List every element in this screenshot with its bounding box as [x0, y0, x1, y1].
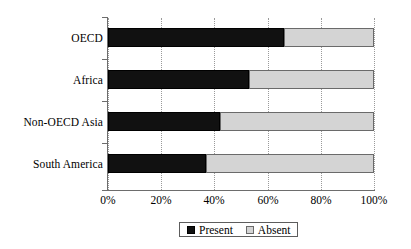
x-tick-label-80: 80%: [299, 194, 343, 207]
y-axis-tick: [102, 190, 108, 191]
x-tick-label-40: 40%: [192, 194, 236, 207]
category-axis-labels: OECD Africa Non-OECD Asia South America: [0, 20, 103, 180]
bar-segment-present-south-america: [108, 154, 206, 173]
x-tick-label-0: 0%: [86, 194, 130, 207]
bar-row-non-oecd-asia: [108, 112, 374, 131]
x-tick-label-20: 20%: [139, 194, 183, 207]
legend-item-absent: Absent: [246, 224, 291, 236]
legend-swatch-absent-icon: [246, 226, 254, 234]
stacked-bar-chart: OECD Africa Non-OECD Asia South America: [0, 0, 411, 249]
category-label-non-oecd-asia: Non-OECD Asia: [0, 116, 103, 128]
bar-segment-present-oecd: [108, 28, 284, 47]
chart-legend: Present Absent: [179, 222, 298, 237]
bar-segment-absent-non-oecd-asia: [220, 112, 374, 131]
legend-item-present: Present: [187, 224, 233, 236]
bar-segment-absent-oecd: [284, 28, 374, 47]
gridline-100: [374, 18, 375, 190]
category-label-oecd: OECD: [0, 32, 103, 44]
x-axis-line: [107, 190, 375, 191]
x-tick-label-100: 100%: [352, 194, 396, 207]
bar-segment-present-non-oecd-asia: [108, 112, 220, 131]
bar-row-oecd: [108, 28, 374, 47]
x-tick-label-60: 60%: [246, 194, 290, 207]
legend-swatch-present-icon: [187, 226, 195, 234]
category-label-south-america: South America: [0, 158, 103, 170]
plot-area: [108, 18, 374, 190]
legend-label-present: Present: [199, 224, 233, 236]
bar-segment-absent-south-america: [206, 154, 374, 173]
category-label-africa: Africa: [0, 74, 103, 86]
legend-label-absent: Absent: [258, 224, 291, 236]
bar-segment-present-africa: [108, 70, 249, 89]
bar-row-africa: [108, 70, 374, 89]
bar-segment-absent-africa: [249, 70, 374, 89]
bar-row-south-america: [108, 154, 374, 173]
